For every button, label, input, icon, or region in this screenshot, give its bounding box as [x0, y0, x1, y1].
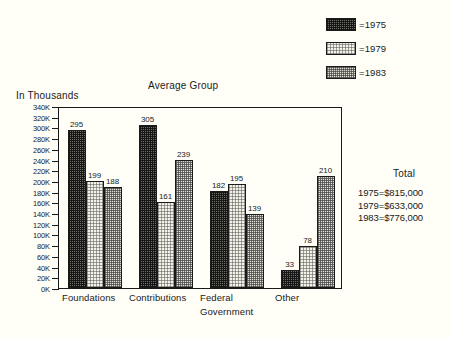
- bar: [139, 125, 157, 288]
- x-axis-category-label: Foundations: [62, 292, 115, 303]
- totals-heading: Total: [358, 168, 450, 179]
- legend-swatch-1979: [326, 42, 356, 55]
- bar: [104, 187, 122, 288]
- bar-value-label: 33: [279, 260, 301, 269]
- y-axis-tick-label: 200K: [20, 177, 50, 186]
- bar: [246, 214, 264, 288]
- bar: [86, 181, 104, 288]
- y-axis-tick-label: 160K: [20, 199, 50, 208]
- bar: [68, 130, 86, 288]
- y-axis-tick-label: 320K: [20, 113, 50, 122]
- bar: [157, 202, 175, 288]
- legend-label-1983: =1983: [359, 67, 386, 78]
- bars-layer: 2951991883051612391821951393378210: [59, 108, 341, 288]
- legend-item-1979: =1979: [326, 38, 438, 58]
- bar-value-label: 161: [155, 192, 177, 201]
- bar-value-label: 188: [102, 177, 124, 186]
- bar-value-label: 210: [315, 166, 337, 175]
- plot-area: 2951991883051612391821951393378210: [58, 107, 342, 289]
- x-axis-category-label: Federal: [200, 292, 233, 303]
- bar: [210, 191, 228, 288]
- x-axis-category-label: Other: [275, 292, 299, 303]
- bar: [281, 270, 299, 288]
- y-axis-tick-label: 220K: [20, 167, 50, 176]
- legend-item-1975: =1975: [326, 14, 438, 34]
- legend-item-1983: =1983: [326, 62, 438, 82]
- y-axis-tick-label: 0K: [20, 285, 50, 294]
- bar-value-label: 305: [137, 115, 159, 124]
- y-axis-tick-label: 300K: [20, 124, 50, 133]
- bar: [317, 176, 335, 288]
- chart-legend: =1975 =1979 =1983: [326, 14, 438, 86]
- y-axis-tick-label: 20K: [20, 274, 50, 283]
- legend-label-1975: =1975: [359, 19, 386, 30]
- y-axis-tick-label: 100K: [20, 231, 50, 240]
- total-row-1979: 1979=$633,000: [358, 200, 450, 213]
- y-axis-tick-label: 340K: [20, 103, 50, 112]
- y-axis-tick-label: 260K: [20, 145, 50, 154]
- total-row-1975: 1975=$815,000: [358, 187, 450, 200]
- total-row-1983: 1983=$776,000: [358, 212, 450, 225]
- bar-value-label: 295: [66, 120, 88, 129]
- bar: [228, 184, 246, 288]
- y-axis-label: In Thousands: [16, 90, 79, 101]
- y-axis-tick-label: 240K: [20, 156, 50, 165]
- legend-swatch-1975: [326, 18, 356, 31]
- y-axis-tick-label: 120K: [20, 220, 50, 229]
- y-axis-tick-label: 60K: [20, 252, 50, 261]
- totals-block: Total 1975=$815,000 1979=$633,000 1983=$…: [358, 168, 450, 225]
- legend-label-1979: =1979: [359, 43, 386, 54]
- y-axis-tick-label: 140K: [20, 210, 50, 219]
- legend-swatch-1983: [326, 66, 356, 79]
- bar-value-label: 78: [297, 236, 319, 245]
- bar-value-label: 195: [226, 174, 248, 183]
- x-axis-category-label: Contributions: [129, 292, 186, 303]
- chart-title: Average Group: [148, 80, 218, 91]
- y-axis-tick: [52, 289, 59, 290]
- y-axis-tick-label: 280K: [20, 135, 50, 144]
- y-axis-tick-label: 80K: [20, 242, 50, 251]
- bar: [175, 160, 193, 288]
- y-axis: 340K320K300K280K260K240K220K200K180K160K…: [0, 107, 59, 289]
- bar: [299, 246, 317, 288]
- x-axis-category-label-line2: Government: [200, 306, 253, 317]
- y-axis-tick-label: 40K: [20, 263, 50, 272]
- bar-value-label: 239: [173, 150, 195, 159]
- y-axis-tick-label: 180K: [20, 188, 50, 197]
- chart-canvas: =1975 =1979 =1983 Average Group In Thous…: [0, 0, 451, 339]
- bar-value-label: 139: [244, 204, 266, 213]
